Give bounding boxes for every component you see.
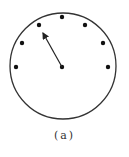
dial-dot	[20, 41, 24, 45]
figure-label: (a)	[0, 129, 129, 142]
dial-dot	[101, 41, 105, 45]
dial-dot	[60, 15, 64, 19]
dial-dots	[14, 15, 110, 69]
dial-dot	[83, 23, 87, 27]
arrow-pointer	[43, 33, 62, 67]
dial-dot	[14, 65, 18, 69]
dial-dot	[37, 23, 41, 27]
dial-dot	[106, 65, 110, 69]
